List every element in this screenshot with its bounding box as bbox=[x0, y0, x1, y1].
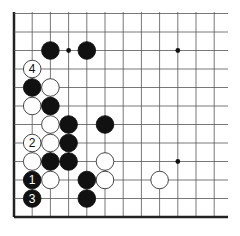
white-stone bbox=[151, 171, 169, 189]
black-stone bbox=[60, 134, 78, 152]
black-stone-icon bbox=[78, 190, 96, 208]
star-point bbox=[66, 48, 71, 53]
black-stone bbox=[42, 153, 60, 171]
white-stone-icon bbox=[151, 171, 169, 189]
white-stone-icon bbox=[96, 171, 114, 189]
black-stone-icon bbox=[60, 116, 78, 134]
white-stone-icon bbox=[23, 97, 41, 115]
black-stone-icon bbox=[78, 42, 96, 60]
black-stone-icon bbox=[42, 153, 60, 171]
white-stone bbox=[42, 79, 60, 97]
go-board: 4213 bbox=[0, 0, 240, 236]
white-stone-icon bbox=[42, 171, 60, 189]
black-stone bbox=[78, 42, 96, 60]
black-stone bbox=[60, 153, 78, 171]
white-stone-icon bbox=[23, 153, 41, 171]
move-number-label: 4 bbox=[29, 62, 36, 76]
black-stone-icon bbox=[78, 171, 96, 189]
white-stone-icon bbox=[96, 153, 114, 171]
black-stone bbox=[60, 116, 78, 134]
black-stone-3: 3 bbox=[23, 190, 41, 208]
black-stone-icon bbox=[42, 97, 60, 115]
white-stone-icon bbox=[42, 79, 60, 97]
white-stone-2: 2 bbox=[23, 134, 41, 152]
move-number-label: 3 bbox=[29, 192, 36, 206]
black-stone bbox=[42, 42, 60, 60]
white-stone bbox=[96, 171, 114, 189]
move-number-label: 1 bbox=[29, 173, 36, 187]
white-stone bbox=[96, 153, 114, 171]
move-number-label: 2 bbox=[29, 136, 36, 150]
white-stone bbox=[23, 153, 41, 171]
black-stone-icon bbox=[60, 153, 78, 171]
black-stone-icon bbox=[23, 79, 41, 97]
black-stone bbox=[42, 97, 60, 115]
white-stone bbox=[23, 97, 41, 115]
black-stone bbox=[78, 190, 96, 208]
star-point bbox=[175, 48, 180, 53]
star-point bbox=[175, 159, 180, 164]
white-stone bbox=[42, 116, 60, 134]
white-stone bbox=[42, 134, 60, 152]
black-stone bbox=[78, 171, 96, 189]
black-stone-icon bbox=[42, 42, 60, 60]
white-stone-4: 4 bbox=[23, 60, 41, 78]
white-stone-icon bbox=[42, 116, 60, 134]
black-stone bbox=[96, 116, 114, 134]
black-stone-icon bbox=[60, 134, 78, 152]
white-stone bbox=[42, 171, 60, 189]
black-stone-icon bbox=[96, 116, 114, 134]
white-stone-icon bbox=[42, 134, 60, 152]
black-stone bbox=[23, 79, 41, 97]
black-stone-1: 1 bbox=[23, 171, 41, 189]
